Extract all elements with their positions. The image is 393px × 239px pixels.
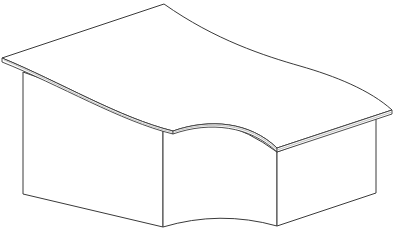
reception-desk-drawing xyxy=(0,0,393,239)
diagram-canvas: curved reception desk xyxy=(0,0,393,239)
